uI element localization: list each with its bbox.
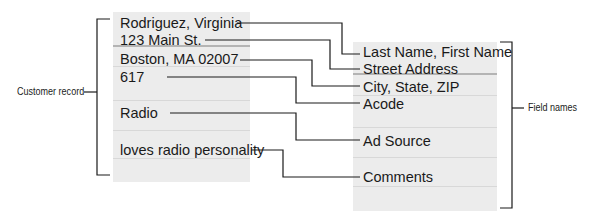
connector-comments	[251, 150, 360, 177]
right-bracket	[500, 42, 512, 208]
connector-name	[237, 23, 360, 54]
connector-street	[205, 40, 360, 69]
connector-city	[240, 60, 360, 86]
left-bracket	[97, 19, 110, 175]
connector-ad-source	[170, 113, 360, 140]
connector-lines	[0, 0, 594, 219]
connector-acode	[167, 77, 360, 103]
